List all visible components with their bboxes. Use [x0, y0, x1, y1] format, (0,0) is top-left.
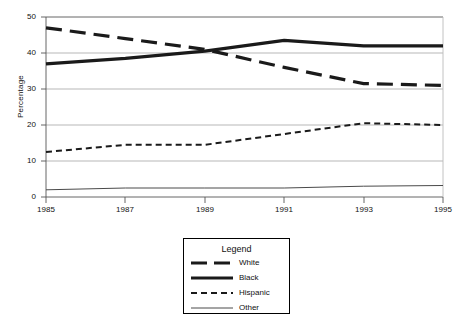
- x-tick-label-1995: 1995: [421, 206, 465, 214]
- y-tick-label-10: 10: [14, 157, 36, 165]
- x-tick-label-1987: 1987: [103, 206, 147, 214]
- legend-title: Legend: [184, 244, 289, 254]
- y-tick-label-30: 30: [14, 85, 36, 93]
- x-tick-marks: [46, 197, 443, 203]
- legend-item-black[interactable]: Black: [184, 271, 289, 284]
- y-tick-label-20: 20: [14, 121, 36, 129]
- series-line-white: [46, 28, 443, 86]
- series-line-other: [46, 186, 443, 190]
- x-tick-label-1985: 1985: [24, 206, 68, 214]
- y-tick-label-40: 40: [14, 49, 36, 57]
- series-line-hispanic: [46, 123, 443, 152]
- legend-swatch-other-thin-line-icon: [191, 303, 233, 313]
- legend-swatch-hispanic-short-dash-line-icon: [191, 288, 233, 298]
- line-chart: Percentage 50 40 30 20 10 0 1985 1987 19…: [0, 0, 469, 318]
- y-tick-label-50: 50: [14, 13, 36, 21]
- series-line-black: [46, 40, 443, 63]
- legend-swatch-white-long-dash-line-icon: [191, 258, 233, 268]
- legend-item-hispanic[interactable]: Hispanic: [184, 286, 289, 299]
- legend-label-black: Black: [239, 273, 259, 282]
- y-tick-marks: [41, 17, 46, 197]
- legend-label-other: Other: [239, 303, 259, 312]
- x-tick-label-1993: 1993: [342, 206, 386, 214]
- legend-item-other[interactable]: Other: [184, 301, 289, 314]
- legend-item-white[interactable]: White: [184, 256, 289, 269]
- legend-label-white: White: [239, 258, 259, 267]
- legend-label-hispanic: Hispanic: [239, 288, 270, 297]
- axis-frame: [46, 17, 443, 197]
- x-tick-label-1991: 1991: [262, 206, 306, 214]
- legend-swatch-black-solid-line-icon: [191, 273, 233, 283]
- gridlines: [46, 53, 443, 161]
- y-tick-label-0: 0: [14, 193, 36, 201]
- x-tick-label-1989: 1989: [183, 206, 227, 214]
- chart-legend: Legend White Black Hispan: [183, 238, 290, 314]
